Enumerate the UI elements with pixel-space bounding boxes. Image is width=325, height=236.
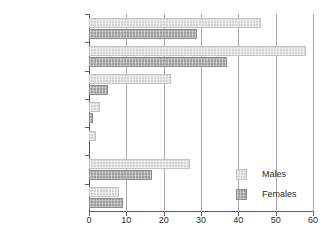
bar-males: [89, 46, 306, 56]
bar-females: [89, 170, 152, 180]
x-tick-label-20: 20: [159, 215, 169, 225]
bar-row: [89, 71, 313, 99]
category-tick: [85, 14, 89, 15]
category-tick: [85, 42, 89, 43]
plot-area: [89, 14, 313, 212]
bar-males: [89, 187, 119, 197]
x-tick-label-30: 30: [196, 215, 206, 225]
x-tick-label-50: 50: [271, 215, 281, 225]
x-tick-label-40: 40: [233, 215, 243, 225]
legend-label: Females: [262, 189, 297, 199]
bar-males: [89, 159, 190, 169]
legend-swatch-females: [236, 189, 247, 200]
category-tick: [85, 71, 89, 72]
bar-chart: 0102030405060 General population†White I…: [0, 0, 325, 236]
legend-label: Males: [262, 169, 286, 179]
bar-row: [89, 99, 313, 127]
bar-row: [89, 14, 313, 42]
bar-males: [89, 74, 171, 84]
x-tick-label-10: 10: [121, 215, 131, 225]
bar-row: [89, 127, 313, 155]
bar-females: [89, 113, 93, 123]
gridline-60: [313, 14, 314, 212]
category-tick: [85, 127, 89, 128]
category-tick: [85, 99, 89, 100]
x-tick-label-0: 0: [86, 215, 91, 225]
category-tick: [85, 155, 89, 156]
bar-males: [89, 131, 96, 141]
x-tick-label-60: 60: [308, 215, 318, 225]
category-tick: [85, 184, 89, 185]
bar-row: [89, 42, 313, 70]
bar-females: [89, 29, 197, 39]
bar-males: [89, 18, 261, 28]
bar-males: [89, 102, 100, 112]
legend-swatch-males: [236, 169, 247, 180]
bar-females: [89, 198, 123, 208]
bar-females: [89, 57, 227, 67]
bar-females: [89, 85, 108, 95]
